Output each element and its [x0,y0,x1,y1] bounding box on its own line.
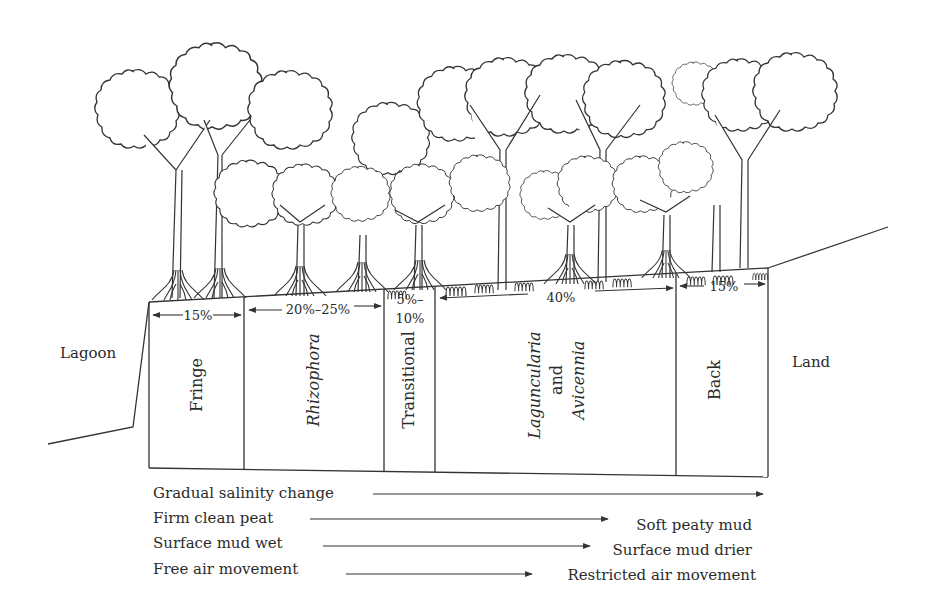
prop-roots-icon [274,266,326,296]
back-width-label: 15% [710,279,739,294]
gradient-from-salinity: Gradual salinity change [153,484,334,502]
gradient-to-air: Restricted air movement [567,566,756,584]
zone-label-rhizophora: Rhizophora [304,334,323,428]
mangrove-trees-illustration [95,43,838,300]
pneumatophore-icon [475,285,493,293]
gradient-from-mud: Surface mud wet [153,534,283,552]
tree-crown-icon [449,155,510,212]
pneumatophore-icon [613,279,631,287]
tree-crown-icon [331,166,390,221]
tree-crown-icon [557,156,618,213]
tree-crown-icon [248,71,333,150]
zone-label-laguncularia: Laguncularia [525,331,544,439]
transitional-width-label-line2: 10% [396,311,425,326]
fringe-width-label: 15% [184,308,213,323]
pneumatophore-icon [687,277,705,285]
rhizophora-width-label: 20%–25% [286,302,350,317]
pneumatophore-icon [515,283,533,291]
zone-label-back: Back [705,360,724,400]
tree-crown-icon [658,142,713,193]
zone-label-fringe: Fringe [187,358,206,412]
gradient-from-air: Free air movement [153,560,298,578]
zone-table [149,268,768,477]
tree-crown-icon [169,43,262,129]
land-label: Land [792,353,831,371]
laguncularia-avicennia-width-label: 40% [547,290,576,305]
prop-roots-icon [194,268,246,298]
transitional-width-label-line1: 5%– [396,292,423,307]
environmental-gradients: Gradual salinity change Firm clean peat … [153,484,763,584]
zone-label-transitional: Transitional [399,331,418,429]
gradient-to-peat: Soft peaty mud [636,516,752,534]
tree-crown-icon [753,53,838,132]
ground-profile [48,227,888,444]
mangrove-zonation-diagram: 15% 20%–25% 5%– 10% 40% 15% Fringe Rhizo… [0,0,935,616]
tree-crown-icon [95,70,180,149]
zone-label-avicennia: Avicennia [569,341,588,422]
gradient-from-peat: Firm clean peat [153,509,273,527]
gradient-to-mud: Surface mud drier [612,541,752,559]
pneumatophore-icon [753,273,768,280]
pneumatophore-icon [446,287,466,296]
zone-label-and: and [547,365,566,395]
tree-crown-icon [352,102,430,174]
lagoon-label: Lagoon [60,344,117,362]
prop-roots-icon [336,262,388,292]
